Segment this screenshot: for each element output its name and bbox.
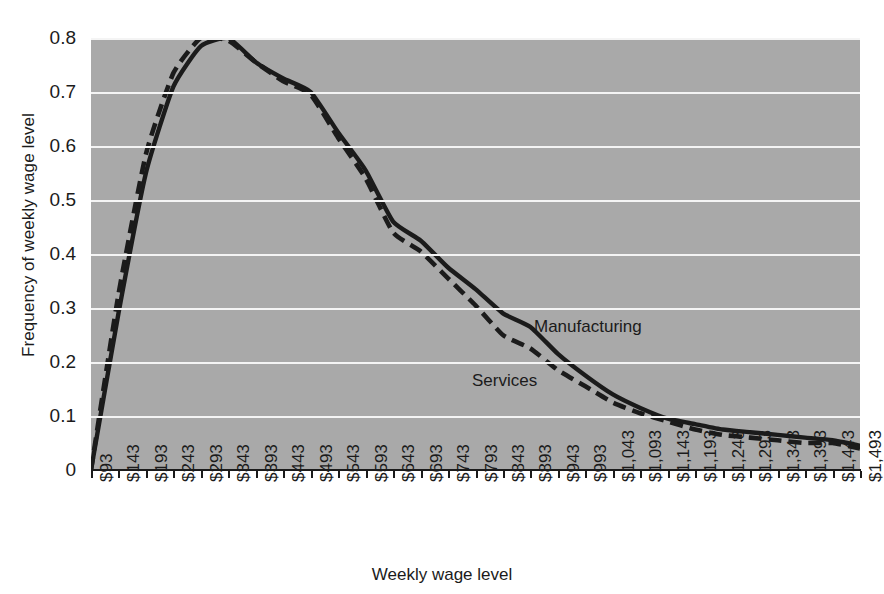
x-axis-tick-label: $943 (564, 444, 584, 482)
x-axis-tick-label: $893 (536, 444, 556, 482)
x-axis-tick-mark (201, 471, 203, 478)
y-axis-tick-label: 0.1 (50, 405, 76, 427)
x-axis-tick-mark (860, 471, 862, 478)
x-axis-tick-label: $293 (207, 444, 227, 482)
x-axis-tick-label: $493 (317, 444, 337, 482)
x-axis-tick-label: $743 (454, 444, 474, 482)
x-axis-tick-mark (640, 471, 642, 478)
x-axis-tick-mark (173, 471, 175, 478)
x-axis-tick-mark (668, 471, 670, 478)
y-axis-tick-labels: 0.80.70.60.50.40.30.20.10 (20, 38, 84, 470)
chart-container: Frequency of weekly wage level 0.80.70.6… (0, 0, 884, 594)
series-label-manufacturing: Manufacturing (534, 317, 642, 337)
x-axis-tick-label: $393 (262, 444, 282, 482)
x-axis-tick-label: $1,143 (674, 430, 694, 482)
x-axis-tick-mark (338, 471, 340, 478)
x-axis-tick-mark (750, 471, 752, 478)
gridline (91, 362, 860, 364)
x-axis-tick-label: $693 (427, 444, 447, 482)
y-axis-tick-label: 0.8 (50, 27, 76, 49)
x-axis-tick-label: $1,043 (619, 430, 639, 482)
x-axis-tick-label: $1,343 (784, 430, 804, 482)
x-axis-tick-mark (695, 471, 697, 478)
x-axis-tick-mark (558, 471, 560, 478)
x-axis-tick-mark (256, 471, 258, 478)
gridline (91, 254, 860, 256)
x-axis-tick-mark (118, 471, 120, 478)
x-axis-tick-label: $1,093 (646, 430, 666, 482)
y-axis-tick-label: 0.3 (50, 297, 76, 319)
x-axis-tick-mark (448, 471, 450, 478)
x-axis-tick-label: $193 (152, 444, 172, 482)
x-axis-tick-label: $993 (591, 444, 611, 482)
y-axis-tick-label: 0.2 (50, 351, 76, 373)
x-axis-tick-mark (366, 471, 368, 478)
x-axis-tick-label: $143 (124, 444, 144, 482)
x-axis-tick-mark (283, 471, 285, 478)
y-axis-tick-label: 0.4 (50, 243, 76, 265)
gridline (91, 416, 860, 418)
x-axis-tick-label: $1,393 (811, 430, 831, 482)
y-axis-tick-label: 0 (65, 459, 76, 481)
x-axis-tick-mark (613, 471, 615, 478)
x-axis-tick-label: $343 (234, 444, 254, 482)
x-axis-tick-label: $843 (509, 444, 529, 482)
x-axis-tick-label: $1,243 (729, 430, 749, 482)
x-axis-tick-label: $1,193 (701, 430, 721, 482)
series-label-services: Services (472, 371, 537, 391)
y-axis-tick-label: 0.6 (50, 135, 76, 157)
x-axis-tick-mark (421, 471, 423, 478)
x-axis-tick-mark (778, 471, 780, 478)
x-axis-tick-mark (833, 471, 835, 478)
x-axis-tick-label: $243 (179, 444, 199, 482)
x-axis-tick-label: $1,443 (839, 430, 859, 482)
x-axis-tick-mark (91, 471, 93, 478)
gridline (91, 146, 860, 148)
gridline (91, 200, 860, 202)
x-axis-tick-mark (476, 471, 478, 478)
x-axis-tick-mark (393, 471, 395, 478)
x-axis-tick-mark (503, 471, 505, 478)
x-axis-tick-mark (585, 471, 587, 478)
y-axis-tick-label: 0.5 (50, 189, 76, 211)
x-axis-tick-mark (228, 471, 230, 478)
x-axis-tick-mark (530, 471, 532, 478)
gridline (91, 38, 860, 40)
x-axis-tick-label: $1,493 (866, 430, 884, 482)
gridline (91, 92, 860, 94)
y-axis-tick-label: 0.7 (50, 81, 76, 103)
x-axis-tick-label: $643 (399, 444, 419, 482)
x-axis-tick-mark (311, 471, 313, 478)
x-axis-tick-label: $1,293 (756, 430, 776, 482)
gridline (91, 308, 860, 310)
x-axis-tick-label: $593 (372, 444, 392, 482)
x-axis-tick-mark (805, 471, 807, 478)
x-axis-tick-label: $543 (344, 444, 364, 482)
x-axis-tick-label: $443 (289, 444, 309, 482)
x-axis-tick-mark (723, 471, 725, 478)
plot-area (91, 38, 860, 470)
x-axis-tick-label: $793 (482, 444, 502, 482)
x-axis-tick-label: $93 (97, 454, 117, 482)
x-axis-tick-mark (146, 471, 148, 478)
x-axis-title: Weekly wage level (0, 565, 884, 585)
